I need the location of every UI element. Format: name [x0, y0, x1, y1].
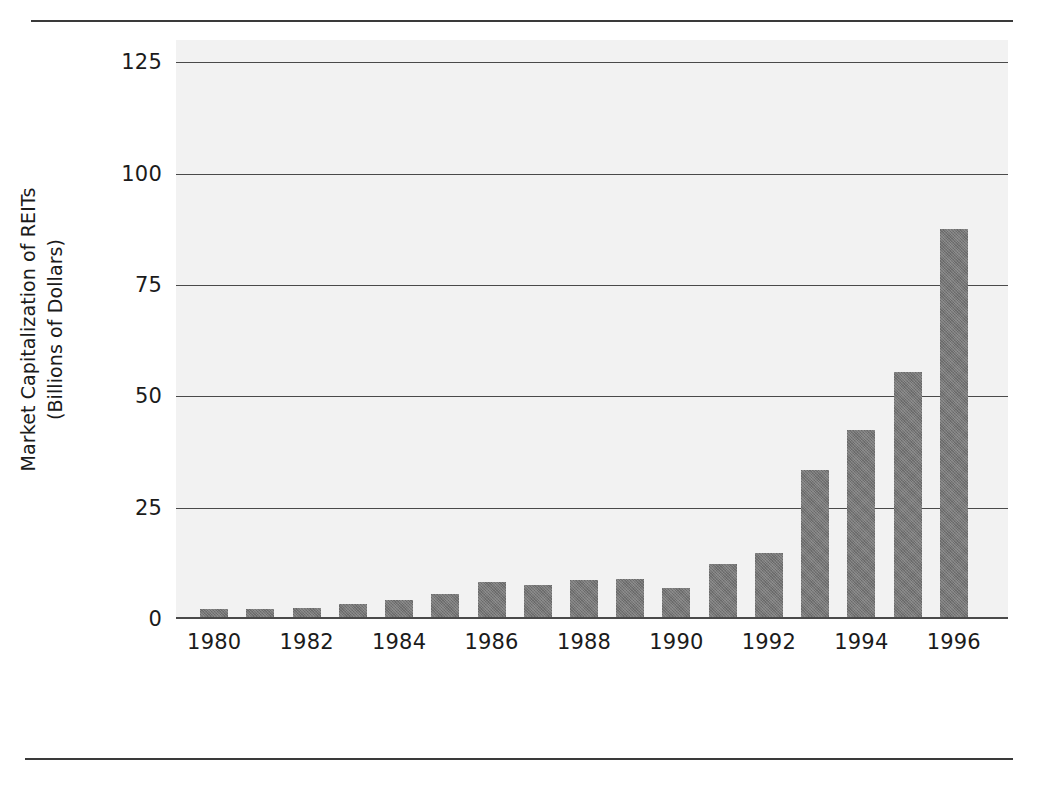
chart-figure: Market Capitalization of REITs (Billions… — [0, 0, 1043, 794]
x-tick-label-1994: 1994 — [834, 630, 888, 654]
bar-1992 — [755, 553, 783, 619]
y-tick-label-0: 0 — [148, 607, 162, 631]
bar-1996 — [940, 229, 968, 619]
gridline-75 — [176, 285, 1008, 286]
bar-1985 — [431, 594, 459, 619]
bar-1989 — [616, 579, 644, 619]
y-tick-label-25: 25 — [135, 496, 162, 520]
gridline-50 — [176, 396, 1008, 397]
y-tick-label-100: 100 — [121, 162, 162, 186]
bar-1995 — [894, 372, 922, 619]
x-tick-label-1996: 1996 — [927, 630, 981, 654]
gridline-125 — [176, 62, 1008, 63]
x-tick-label-1988: 1988 — [557, 630, 611, 654]
y-axis-title: Market Capitalization of REITs (Billions… — [10, 40, 72, 619]
x-tick-label-1990: 1990 — [649, 630, 703, 654]
x-tick-label-1980: 1980 — [187, 630, 241, 654]
x-axis-tick-labels: 198019821984198619881990199219941996 — [176, 630, 1008, 662]
bar-1986 — [478, 582, 506, 619]
gridline-100 — [176, 174, 1008, 175]
y-axis-tick-labels: 1251007550250 — [100, 40, 162, 619]
bar-1994 — [847, 430, 875, 619]
y-axis-title-line-1: Market Capitalization of REITs — [17, 188, 39, 472]
x-tick-label-1984: 1984 — [372, 630, 426, 654]
bar-1993 — [801, 470, 829, 619]
figure-bottom-rule — [25, 758, 1013, 760]
x-tick-label-1982: 1982 — [280, 630, 334, 654]
y-tick-label-75: 75 — [135, 273, 162, 297]
x-tick-label-1986: 1986 — [464, 630, 518, 654]
bar-1991 — [709, 564, 737, 619]
plot-area — [176, 40, 1008, 619]
y-axis-title-line-2: (Billions of Dollars) — [44, 239, 66, 420]
y-tick-label-125: 125 — [121, 50, 162, 74]
bar-1988 — [570, 580, 598, 619]
bar-1987 — [524, 585, 552, 619]
bar-1990 — [662, 588, 690, 619]
x-tick-label-1992: 1992 — [742, 630, 796, 654]
y-tick-label-50: 50 — [135, 384, 162, 408]
figure-top-rule — [31, 20, 1013, 22]
gridline-25 — [176, 508, 1008, 509]
x-axis-line — [176, 617, 1008, 619]
